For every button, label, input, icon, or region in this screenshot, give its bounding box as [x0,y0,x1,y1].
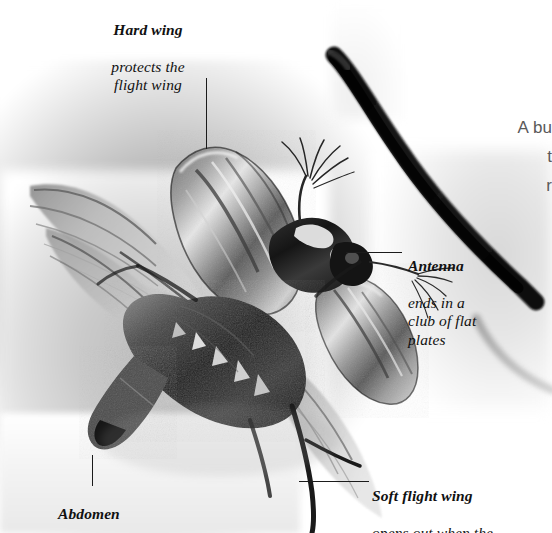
callout-abdomen: Abdomen [58,486,198,523]
beetle-cast-shadow [100,404,340,476]
leader-line-soft-flight-wing [299,481,369,482]
callout-antenna-body: ends in a club of flat plates [408,294,476,348]
right-hard-wing-elytron [316,276,418,404]
callout-clipped-neighbour: A bu t r [418,84,552,200]
leader-line-abdomen [92,455,93,486]
figure-page: Hard wing protects the flight wing Anten… [0,0,552,533]
callout-hard-wing-heading: Hard wing [113,21,182,38]
callout-hard-wing: Hard wing protects the flight wing [72,2,224,95]
callout-soft-flight-wing-heading: Soft flight wing [372,487,473,504]
callout-soft-flight-wing: Soft flight wing opens out when the hard… [372,468,552,533]
callout-antenna: Antenna ends in a club of flat plates [408,238,548,350]
leader-line-antenna [346,252,402,253]
beetle-thorax-head [269,218,373,293]
antenna-club-left [282,138,354,222]
callout-hard-wing-body: protects the flight wing [111,58,184,94]
callout-abdomen-heading: Abdomen [58,505,120,522]
callout-soft-flight-wing-body: opens out when the hard wing moves [372,524,493,533]
callout-antenna-heading: Antenna [408,257,464,274]
callout-clipped-neighbour-body: A bu t r [518,118,552,195]
